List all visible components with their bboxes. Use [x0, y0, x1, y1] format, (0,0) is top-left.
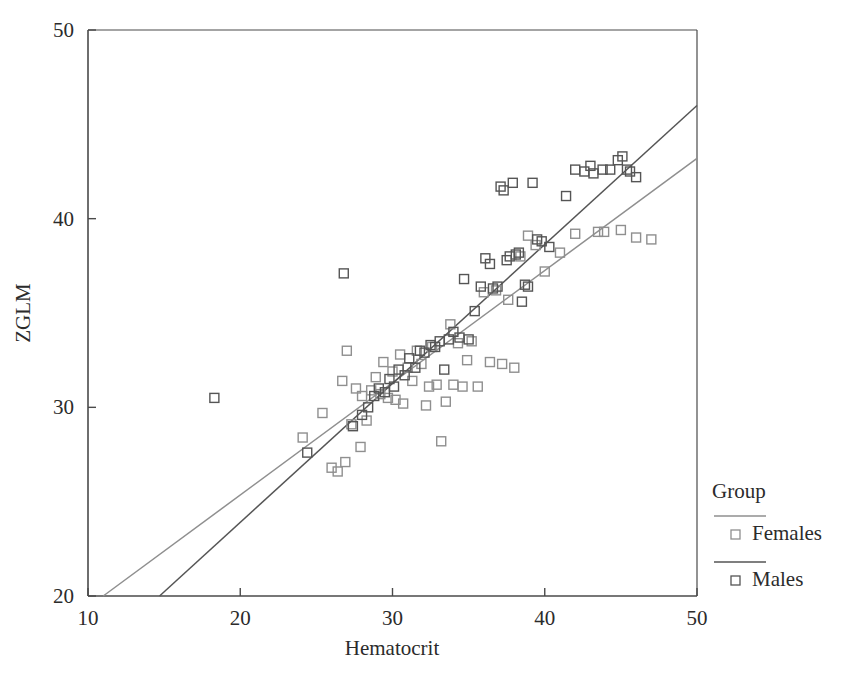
data-point — [499, 186, 508, 195]
y-tick-label: 40 — [53, 207, 74, 231]
series-points-males — [210, 152, 641, 457]
data-point — [632, 233, 641, 242]
regression-lines — [103, 105, 697, 596]
legend-label-males[interactable]: Males — [752, 567, 803, 591]
data-point — [458, 382, 467, 391]
data-point — [338, 376, 347, 385]
data-point — [555, 248, 564, 257]
data-point — [502, 256, 511, 265]
legend: Group Females Males — [712, 479, 822, 591]
data-point — [303, 448, 312, 457]
data-point — [422, 401, 431, 410]
legend-label-females[interactable]: Females — [752, 521, 822, 545]
data-point — [437, 437, 446, 446]
x-axis-ticks — [88, 588, 697, 596]
data-point — [498, 359, 507, 368]
data-point — [440, 365, 449, 374]
legend-marker-females — [731, 530, 740, 539]
data-point — [562, 192, 571, 201]
data-point — [449, 380, 458, 389]
data-point — [356, 442, 365, 451]
y-tick-label: 30 — [53, 395, 74, 419]
data-point — [379, 358, 388, 367]
data-point — [571, 229, 580, 238]
data-point — [342, 346, 351, 355]
data-point — [571, 165, 580, 174]
data-point — [339, 269, 348, 278]
x-tick-label: 50 — [687, 606, 708, 630]
data-point — [616, 225, 625, 234]
scatter-plot-figure: 1020304050 20304050 Hematocrit ZGLM Grou… — [0, 0, 846, 676]
x-axis-title: Hematocrit — [345, 636, 440, 660]
data-point — [441, 397, 450, 406]
legend-marker-males — [731, 576, 740, 585]
x-tick-label: 10 — [78, 606, 99, 630]
data-point — [479, 288, 488, 297]
x-tick-label: 20 — [230, 606, 251, 630]
y-tick-label: 50 — [53, 18, 74, 42]
data-point — [485, 358, 494, 367]
data-point — [517, 297, 526, 306]
data-point — [476, 282, 485, 291]
data-point — [460, 275, 469, 284]
data-point — [396, 350, 405, 359]
y-tick-label: 20 — [53, 584, 74, 608]
series-points-females — [298, 225, 656, 475]
x-tick-label: 40 — [534, 606, 555, 630]
data-point — [580, 167, 589, 176]
data-point — [510, 363, 519, 372]
data-point — [528, 178, 537, 187]
data-point — [496, 182, 505, 191]
data-point — [371, 373, 380, 382]
data-point — [341, 458, 350, 467]
plot-svg: 1020304050 20304050 Hematocrit ZGLM Grou… — [0, 0, 846, 676]
data-point — [210, 393, 219, 402]
data-point — [647, 235, 656, 244]
x-axis-tick-labels: 1020304050 — [78, 606, 708, 630]
data-point — [298, 433, 307, 442]
data-point — [508, 178, 517, 187]
data-point — [318, 408, 327, 417]
legend-title: Group — [712, 479, 766, 503]
y-axis-title: ZGLM — [11, 283, 35, 343]
data-point — [333, 467, 342, 476]
data-point — [632, 173, 641, 182]
data-point — [327, 463, 336, 472]
data-point — [473, 382, 482, 391]
axis-lines — [88, 30, 697, 596]
y-axis-tick-labels: 20304050 — [53, 18, 74, 608]
data-point — [463, 356, 472, 365]
y-axis-ticks — [88, 30, 96, 596]
data-point — [524, 231, 533, 240]
x-tick-label: 30 — [382, 606, 403, 630]
